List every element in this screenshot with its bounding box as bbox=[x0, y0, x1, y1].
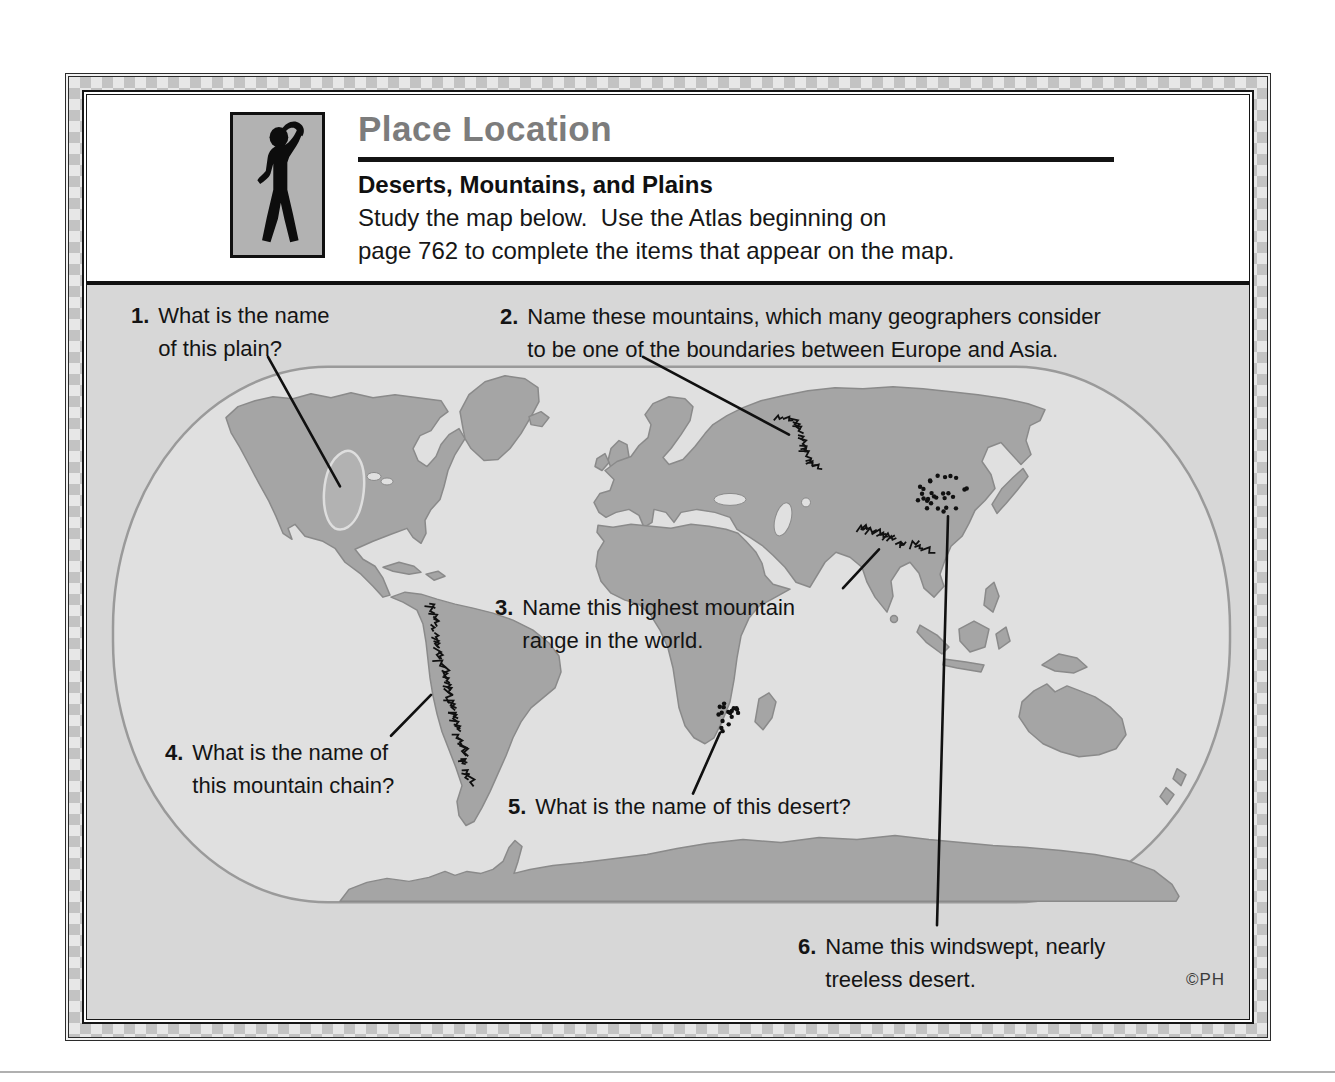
sri-lanka bbox=[891, 616, 898, 623]
question-3-line-1: Name this highest mountain bbox=[522, 591, 795, 624]
aral-sea bbox=[802, 498, 811, 507]
question-3-number: 3. bbox=[495, 591, 513, 657]
instructions-line-2: page 762 to complete the items that appe… bbox=[358, 237, 1128, 265]
black-sea bbox=[714, 493, 746, 505]
question-1-line-2: of this plain? bbox=[158, 332, 329, 365]
question-5-line-1: What is the name of this desert? bbox=[535, 790, 851, 823]
worksheet-page: Place Location Deserts, Mountains, and P… bbox=[0, 0, 1335, 1082]
page-bottom-edge bbox=[0, 1071, 1335, 1073]
question-6: 6. Name this windswept, nearly treeless … bbox=[798, 930, 1105, 996]
question-2-line-1: Name these mountains, which many geograp… bbox=[527, 300, 1101, 333]
question-4-number: 4. bbox=[165, 736, 183, 802]
map-panel: 1. What is the name of this plain? 2. Na… bbox=[87, 285, 1249, 1019]
question-4: 4. What is the name of this mountain cha… bbox=[165, 736, 394, 802]
question-3: 3. Name this highest mountain range in t… bbox=[495, 591, 795, 657]
great-lake-west bbox=[367, 472, 381, 480]
person-silhouette bbox=[233, 115, 322, 255]
question-2-number: 2. bbox=[500, 300, 518, 366]
question-4-line-2: this mountain chain? bbox=[192, 769, 394, 802]
header: Place Location Deserts, Mountains, and P… bbox=[87, 95, 1249, 281]
question-3-line-2: range in the world. bbox=[522, 624, 795, 657]
person-looking-icon bbox=[230, 112, 325, 258]
great-lake-east bbox=[381, 478, 393, 485]
worksheet-subtitle: Deserts, Mountains, and Plains bbox=[358, 171, 1128, 199]
question-1-line-1: What is the name bbox=[158, 299, 329, 332]
question-1: 1. What is the name of this plain? bbox=[131, 299, 330, 365]
question-5: 5. What is the name of this desert? bbox=[508, 790, 851, 823]
worksheet-sheet: Place Location Deserts, Mountains, and P… bbox=[65, 73, 1271, 1041]
instructions-line-1: Study the map below. Use the Atlas begin… bbox=[358, 204, 1128, 232]
question-4-line-1: What is the name of bbox=[192, 736, 394, 769]
question-2: 2. Name these mountains, which many geog… bbox=[500, 300, 1101, 366]
question-1-number: 1. bbox=[131, 299, 149, 365]
copyright: ©PH bbox=[1186, 970, 1225, 990]
question-5-number: 5. bbox=[508, 790, 526, 823]
page-title: Place Location bbox=[358, 109, 1128, 149]
question-6-line-1: Name this windswept, nearly bbox=[825, 930, 1105, 963]
title-rule bbox=[358, 157, 1114, 162]
decorative-checker-border: Place Location Deserts, Mountains, and P… bbox=[69, 77, 1267, 1037]
question-2-line-2: to be one of the boundaries between Euro… bbox=[527, 333, 1101, 366]
question-6-number: 6. bbox=[798, 930, 816, 996]
question-6-line-2: treeless desert. bbox=[825, 963, 1105, 996]
